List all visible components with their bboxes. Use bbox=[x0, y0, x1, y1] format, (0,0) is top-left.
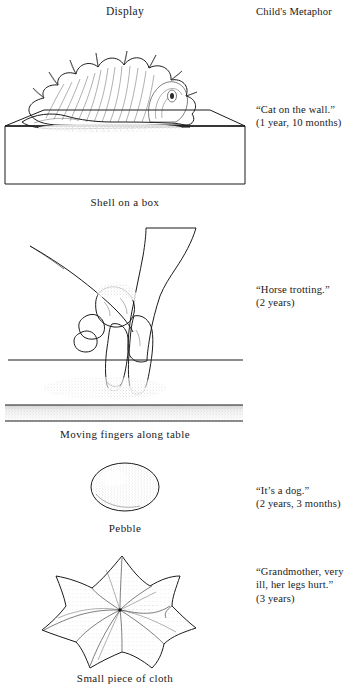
illustration-pebble bbox=[0, 458, 250, 518]
metaphor-age: (2 years) bbox=[256, 296, 356, 309]
shell-shape bbox=[22, 51, 197, 133]
metaphor-shell: “Cat on the wall.” (1 year, 10 months) bbox=[256, 103, 356, 130]
metaphor-age: (3 years) bbox=[256, 592, 356, 605]
hand-shape bbox=[30, 228, 196, 394]
metaphor-hand: “Horse trotting.” (2 years) bbox=[256, 283, 356, 310]
metaphor-quote: “Grandmother, very ill, her legs hurt.” bbox=[256, 565, 356, 592]
column-header-child-metaphor: Child's Metaphor bbox=[256, 5, 356, 18]
shell-aperture bbox=[148, 82, 187, 122]
metaphor-pebble: “It’s a dog.” (2 years, 3 months) bbox=[256, 484, 356, 511]
illustration-hand-on-table bbox=[0, 228, 250, 426]
illustration-shell-on-box bbox=[0, 22, 250, 190]
table-front-band bbox=[5, 405, 243, 421]
metaphor-quote: “It’s a dog.” bbox=[256, 484, 356, 497]
illustration-small-piece-of-cloth bbox=[0, 548, 250, 670]
box-shape bbox=[5, 110, 245, 184]
metaphor-quote: “Cat on the wall.” bbox=[256, 103, 356, 116]
figure-display-child-metaphor: Display Child's Metaphor bbox=[0, 0, 356, 698]
metaphor-age: (2 years, 3 months) bbox=[256, 497, 356, 510]
metaphor-age: (1 year, 10 months) bbox=[256, 116, 356, 129]
pebble-shape bbox=[91, 463, 159, 511]
caption-pebble: Pebble bbox=[0, 522, 250, 534]
cloth-shape bbox=[42, 556, 196, 668]
caption-small-piece-of-cloth: Small piece of cloth bbox=[0, 672, 250, 684]
column-header-display: Display bbox=[0, 5, 250, 17]
metaphor-cloth: “Grandmother, very ill, her legs hurt.” … bbox=[256, 565, 356, 605]
caption-shell-on-box: Shell on a box bbox=[0, 196, 250, 208]
metaphor-quote: “Horse trotting.” bbox=[256, 283, 356, 296]
caption-moving-fingers-along-table: Moving fingers along table bbox=[0, 428, 250, 440]
